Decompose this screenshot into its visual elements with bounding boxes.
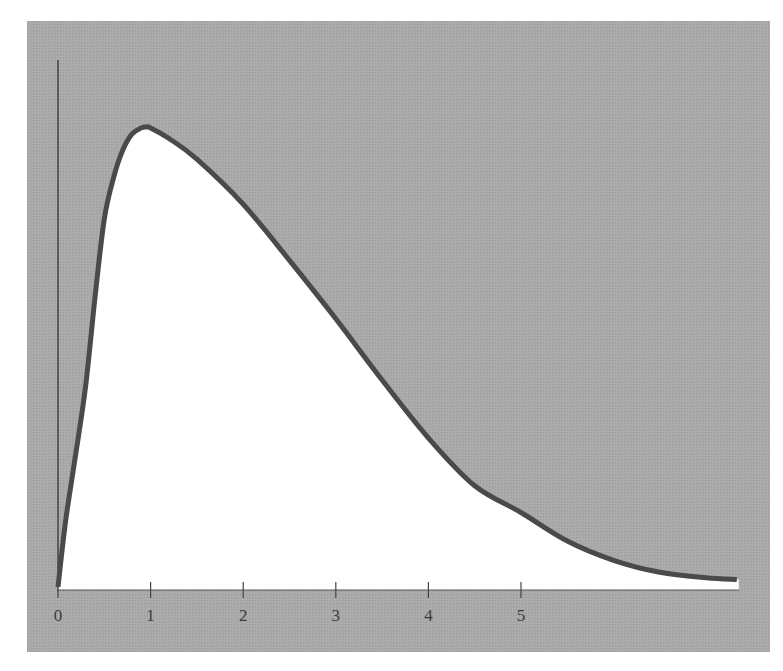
x-tick-label: 1	[146, 606, 155, 625]
x-tick-label: 2	[239, 606, 248, 625]
x-tick-label: 3	[332, 606, 341, 625]
chart: 012345	[0, 0, 783, 671]
x-tick-label: 0	[54, 606, 63, 625]
x-tick-label: 4	[424, 606, 433, 625]
x-tick-label: 5	[517, 606, 526, 625]
